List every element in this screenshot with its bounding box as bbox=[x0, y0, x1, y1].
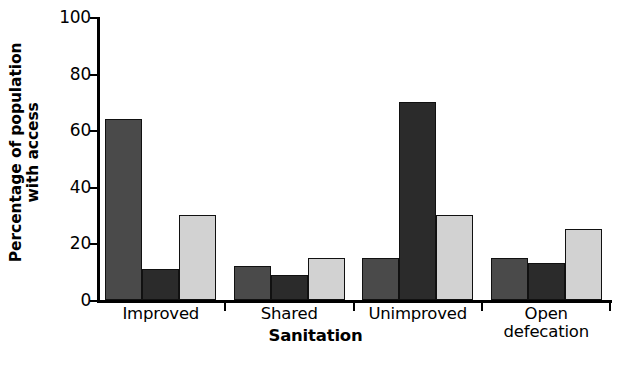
y-axis-line bbox=[97, 17, 100, 303]
bar bbox=[528, 263, 565, 300]
bar-chart: Percentage of population with access 020… bbox=[0, 0, 631, 367]
y-axis-tick-label: 40 bbox=[51, 178, 91, 195]
y-axis-tick-mark bbox=[90, 17, 98, 19]
y-axis-tick-label: 100 bbox=[51, 9, 91, 26]
y-axis-tick-mark bbox=[90, 300, 98, 302]
bar bbox=[105, 119, 142, 300]
bar bbox=[308, 258, 345, 300]
x-axis-category-label-line: Shared bbox=[261, 304, 318, 323]
y-axis-tick-mark bbox=[90, 74, 98, 76]
bar bbox=[565, 229, 602, 300]
y-axis-tick-mark bbox=[90, 130, 98, 132]
bar bbox=[179, 215, 216, 300]
y-axis-tick-label: 60 bbox=[51, 122, 91, 139]
y-axis-title-line2: with access bbox=[26, 43, 43, 263]
x-axis-line bbox=[97, 300, 612, 303]
y-axis-tick-mark bbox=[90, 187, 98, 189]
y-axis-tick-label: 20 bbox=[51, 235, 91, 252]
bar bbox=[362, 258, 399, 300]
y-axis-title-line1: Percentage of population bbox=[9, 43, 26, 263]
bar bbox=[142, 269, 179, 300]
x-axis-title: Sanitation bbox=[0, 326, 631, 345]
bar bbox=[436, 215, 473, 300]
y-axis-tick-label: 80 bbox=[51, 65, 91, 82]
plot-area bbox=[97, 17, 612, 300]
x-axis-category-label-line: Open bbox=[525, 304, 568, 323]
y-axis-title: Percentage of population with access bbox=[0, 0, 52, 305]
bar bbox=[271, 275, 308, 300]
x-axis-category-label-line: Unimproved bbox=[368, 304, 467, 323]
bar bbox=[491, 258, 528, 300]
y-axis-tick-mark bbox=[90, 243, 98, 245]
bar bbox=[234, 266, 271, 300]
x-axis-category-label-line: Improved bbox=[122, 304, 199, 323]
bar bbox=[399, 102, 436, 300]
